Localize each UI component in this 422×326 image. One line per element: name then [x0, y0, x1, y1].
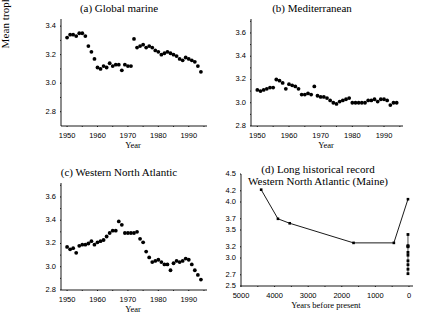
y-tick-label: 3.2 — [33, 50, 56, 59]
y-tick-label: 3.0 — [33, 78, 56, 87]
y-tick-label: 3.0 — [33, 262, 56, 271]
x-tick-label: 1960 — [275, 131, 303, 140]
y-tick-label: 3.4 — [33, 215, 56, 224]
panel-c-plot-area — [60, 182, 208, 291]
x-tick-label: 1980 — [144, 131, 172, 140]
x-tick-label: 1950 — [53, 131, 81, 140]
panel-b-title: (b) Mediterranean — [214, 2, 410, 14]
x-tick-label: 1980 — [144, 295, 172, 304]
panel-b-plot-area — [250, 18, 404, 127]
x-axis-label: Year — [60, 140, 206, 150]
x-axis-label: Year — [250, 140, 402, 150]
x-tick-label: 4000 — [261, 291, 289, 300]
y-tick-label: 4.2 — [213, 186, 236, 195]
y-tick-label: 2.5 — [213, 281, 236, 290]
panel-d-plot-area — [240, 173, 414, 287]
x-axis-label: Years before present — [240, 300, 412, 310]
x-tick-label: 0 — [395, 291, 422, 300]
y-tick-label: 4.0 — [213, 197, 236, 206]
y-tick-label: 3.6 — [33, 192, 56, 201]
y-tick-label: 3.0 — [213, 253, 236, 262]
y-tick-label: 3.4 — [33, 21, 56, 30]
y-tick-label: 3.7 — [213, 214, 236, 223]
y-tick-label: 3.2 — [213, 242, 236, 251]
x-tick-label: 1990 — [370, 131, 398, 140]
y-tick-label: 2.8 — [33, 107, 56, 116]
shared-y-axis-label: Mean trophic level — [0, 0, 11, 86]
x-tick-label: 2000 — [328, 291, 356, 300]
x-tick-label: 5000 — [227, 291, 255, 300]
x-tick-label: 1970 — [114, 131, 142, 140]
y-tick-label: 2.8 — [33, 285, 56, 294]
x-tick-label: 1970 — [114, 295, 142, 304]
y-tick-label: 4.5 — [213, 169, 236, 178]
x-tick-label: 1960 — [84, 131, 112, 140]
y-tick-label: 3.2 — [223, 74, 246, 83]
panel-a-title: (a) Global marine — [28, 2, 210, 14]
x-tick-label: 3000 — [294, 291, 322, 300]
y-tick-label: 3.6 — [223, 28, 246, 37]
x-tick-label: 1950 — [53, 295, 81, 304]
x-tick-label: 1000 — [361, 291, 389, 300]
y-tick-label: 2.7 — [213, 270, 236, 279]
panel-a-plot-area — [60, 18, 208, 127]
y-tick-label: 3.0 — [223, 98, 246, 107]
x-tick-label: 1970 — [307, 131, 335, 140]
y-tick-label: 2.8 — [223, 121, 246, 130]
x-tick-label: 1960 — [84, 295, 112, 304]
figure-trophic-level-panels: Mean trophic level (a) Global marine (b)… — [0, 0, 422, 326]
x-tick-label: 1950 — [243, 131, 271, 140]
y-tick-label: 3.4 — [223, 51, 246, 60]
x-tick-label: 1990 — [175, 295, 203, 304]
y-tick-label: 3.2 — [33, 238, 56, 247]
y-tick-label: 3.5 — [213, 225, 236, 234]
x-tick-label: 1980 — [338, 131, 366, 140]
panel-c-title: (c) Western North Atlantic — [28, 166, 210, 178]
x-tick-label: 1990 — [175, 131, 203, 140]
x-axis-label: Year — [60, 304, 206, 314]
